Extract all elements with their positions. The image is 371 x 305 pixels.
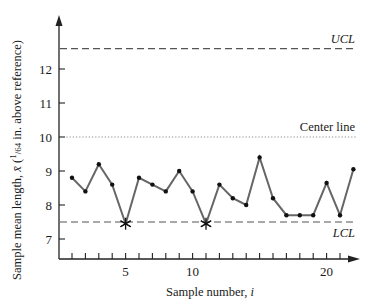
x-axis-title: Sample number, i <box>166 285 255 299</box>
data-point <box>338 213 342 217</box>
data-point <box>177 169 181 173</box>
out-of-control-star-icon <box>120 218 130 230</box>
svg-text:Sample mean length, x̄ (1/64 i: Sample mean length, x̄ (1/64 in. above r… <box>8 40 24 280</box>
out-of-control-star-icon <box>201 218 211 230</box>
y-axis-title: Sample mean length, x̄ (1/64 in. above r… <box>8 40 24 280</box>
x-tick-label: 10 <box>186 264 199 279</box>
data-point <box>70 176 74 180</box>
y-axis-arrow-icon <box>56 15 63 26</box>
y-tick-label: 8 <box>46 198 53 213</box>
y-axis-title-rest: in. above reference) <box>10 40 24 143</box>
ucl-label: UCL <box>331 32 355 46</box>
data-point <box>110 182 114 186</box>
data-point <box>231 196 235 200</box>
data-series <box>70 155 356 230</box>
data-point <box>311 213 315 217</box>
data-point <box>298 213 302 217</box>
data-point <box>150 182 154 186</box>
data-point <box>271 196 275 200</box>
data-point <box>97 162 101 166</box>
x-tick-label: 20 <box>320 264 333 279</box>
data-point <box>83 189 87 193</box>
data-point <box>217 182 221 186</box>
data-point <box>324 181 328 185</box>
data-point <box>164 189 168 193</box>
y-tick-label: 10 <box>39 130 52 145</box>
data-point <box>244 203 248 207</box>
data-point <box>137 176 141 180</box>
y-tick-label: 7 <box>46 232 53 247</box>
y-tick-label: 11 <box>39 96 52 111</box>
data-point <box>284 213 288 217</box>
lcl-label: LCL <box>332 226 355 240</box>
x-axis: 51020 <box>59 253 360 279</box>
y-axis-title-main: Sample mean length, <box>10 172 24 280</box>
data-point <box>351 167 355 171</box>
data-point <box>190 189 194 193</box>
series-line <box>72 157 353 223</box>
y-tick-label: 9 <box>46 164 53 179</box>
center-label: Center line <box>300 120 356 134</box>
x-tick-label: 5 <box>122 264 129 279</box>
y-tick-label: 12 <box>39 62 52 77</box>
control-chart: Sample mean length, x̄ (1/64 in. above r… <box>0 0 371 305</box>
x-axis-arrow-icon <box>348 256 360 263</box>
control-lines: UCLCenter lineLCL <box>60 32 356 240</box>
data-point <box>257 155 261 159</box>
